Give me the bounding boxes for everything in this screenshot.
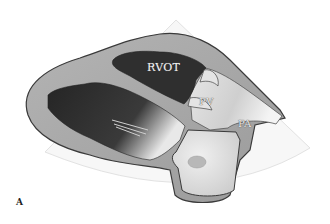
label-rvot: RVOT: [147, 61, 180, 74]
panel-letter: A: [16, 197, 23, 207]
label-pv: PV: [199, 96, 214, 107]
left-atrium: [172, 130, 240, 196]
heart-illustration: [0, 0, 330, 224]
pulmonary-vein-ostium: [188, 156, 206, 168]
echo-diagram: RVOT PV PA A: [0, 0, 330, 224]
label-pa: PA: [238, 118, 252, 129]
